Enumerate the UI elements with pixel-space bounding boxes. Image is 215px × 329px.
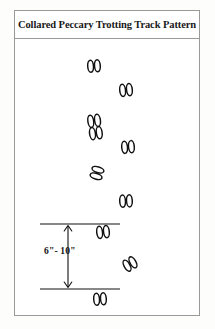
page-title: Collared Peccary Trotting Track Pattern bbox=[18, 19, 196, 30]
stride-measurement-label: 6"- 10" bbox=[44, 246, 76, 256]
title-box: Collared Peccary Trotting Track Pattern bbox=[15, 11, 199, 39]
diagram-panel bbox=[14, 10, 200, 316]
screenshot-root: Collared Peccary Trotting Track Pattern bbox=[0, 0, 215, 329]
